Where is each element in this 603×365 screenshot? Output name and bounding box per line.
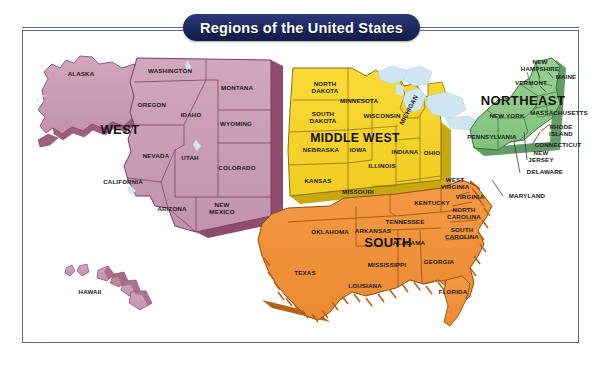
title-rule-left xyxy=(22,27,183,28)
state-label-montana: MONTANA xyxy=(221,85,253,92)
state-label-connecticut: CONNECTICUT xyxy=(535,142,582,149)
state-label-south-carolina: SOUTHCAROLINA xyxy=(445,227,479,241)
state-label-minnesota: MINNESOTA xyxy=(340,98,378,105)
state-label-nevada: NEVADA xyxy=(143,153,170,160)
map-title: Regions of the United States xyxy=(200,20,403,36)
map-figure: Regions of the United States xyxy=(0,0,603,365)
region-label-middle-west: MIDDLE WEST xyxy=(310,132,400,145)
state-label-arkansas: ARKANSAS xyxy=(355,228,391,235)
state-label-arizona: ARIZONA xyxy=(157,206,186,213)
state-label-wisconsin: WISCONSIN xyxy=(363,113,400,120)
map-title-banner: Regions of the United States xyxy=(183,14,420,41)
state-label-vermont: VERMONT xyxy=(515,80,547,87)
state-label-ohio: OHIO xyxy=(424,150,440,157)
state-label-florida: FLORIDA xyxy=(439,289,468,296)
title-rule-right xyxy=(420,27,579,28)
state-label-pennsylvania: PENNSYLVANIA xyxy=(467,134,516,141)
state-label-lousiana: LOUSIANA xyxy=(348,283,382,290)
state-label-oregon: OREGON xyxy=(138,102,166,109)
state-label-rhode-island: RHODEISLAND xyxy=(549,124,573,138)
state-label-washington: WASHINGTON xyxy=(148,68,192,75)
state-label-new-hampshire: NEWHAMPSHIRE xyxy=(521,59,559,73)
state-label-illinois: ILLINOIS xyxy=(368,163,395,170)
state-label-north-dakota: NORTHDAKOTA xyxy=(312,81,339,95)
region-label-west: WEST xyxy=(100,123,139,137)
state-label-tennessee: TENNESSEE xyxy=(386,219,425,226)
state-label-oklahoma: OKLAHOMA xyxy=(311,229,349,236)
state-label-virginia: VIRGINIA xyxy=(456,194,485,201)
state-label-kansas: KANSAS xyxy=(304,178,331,185)
region-label-south: SOUTH xyxy=(364,236,412,250)
state-label-massachusetts: MASSACHUSETTS xyxy=(530,110,588,117)
state-label-hawaii: HAWAII xyxy=(79,289,102,296)
state-label-delaware: DELAWARE xyxy=(527,169,563,176)
state-label-north-carolina: NORTHCAROLINA xyxy=(447,207,481,221)
state-label-idaho: IDAHO xyxy=(181,112,202,119)
state-label-alaska: ALASKA xyxy=(68,71,95,78)
state-label-maryland: MARYLAND xyxy=(509,193,545,200)
state-label-california: CALIFORNIA xyxy=(103,179,143,186)
state-label-nebraska: NEBRASKA xyxy=(303,147,339,154)
state-label-wyoming: WYOMING xyxy=(220,121,252,128)
state-label-mississippi: MISSISSIPPI xyxy=(368,262,406,269)
state-label-new-jersey: NEWJERSEY xyxy=(528,150,553,164)
state-label-kentucky: KENTUCKY xyxy=(414,200,450,207)
state-label-iowa: IOWA xyxy=(349,147,366,154)
state-label-georgia: GEORGIA xyxy=(424,259,454,266)
region-label-northeast: NORTHEAST xyxy=(481,94,566,108)
state-label-maine: MAINE xyxy=(556,74,577,81)
state-label-south-dakota: SOUTHDAKOTA xyxy=(310,111,337,125)
state-label-utah: UTAH xyxy=(181,155,198,162)
state-label-missouri: MISSOURI xyxy=(342,189,374,196)
state-label-new-mexico: NEWMEXICO xyxy=(209,202,234,216)
state-label-new-york: NEW YORK xyxy=(489,113,524,120)
map-frame xyxy=(22,30,579,343)
state-label-texas: TEXAS xyxy=(294,270,315,277)
state-label-indiana: INDIANA xyxy=(392,149,419,156)
state-label-colorado: COLORADO xyxy=(218,165,255,172)
state-label-west-virginia: WESTVIRGINIA xyxy=(441,177,470,191)
